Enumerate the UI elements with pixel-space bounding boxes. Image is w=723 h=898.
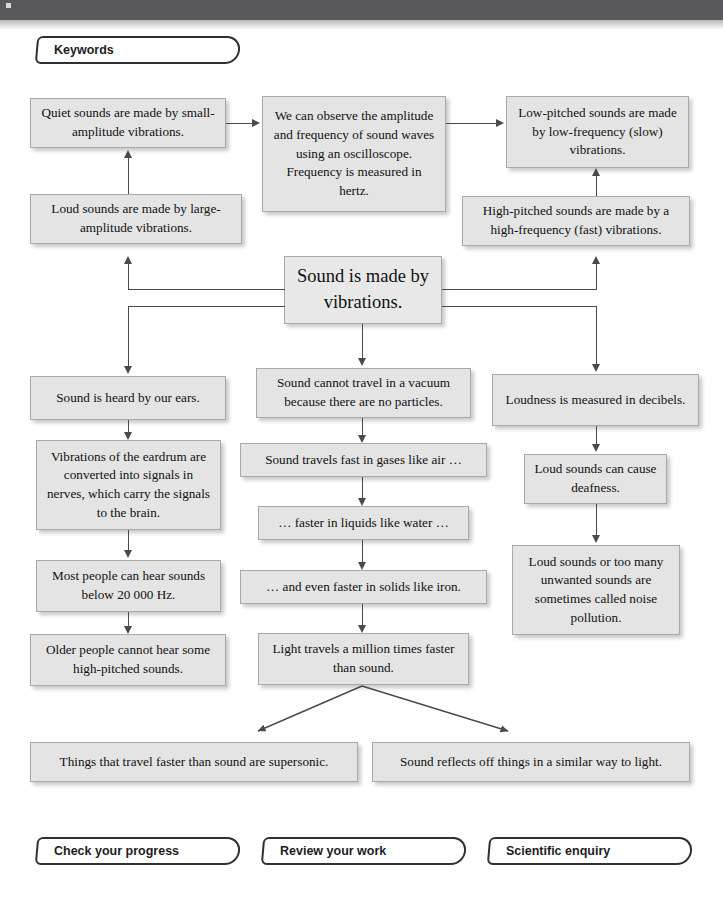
node-noise-pollution[interactable]: Loud sounds or too many unwanted sounds … [512,545,680,635]
footer-tab-check-your-progress[interactable]: Check your progress [35,837,241,865]
node-low-pitched[interactable]: Low-pitched sounds are made by low-frequ… [506,96,689,168]
connector-center-left-lower-dropper [128,306,129,368]
arrowhead-center-to-loudness [592,364,600,372]
node-oscilloscope[interactable]: We can observe the amplitude and frequen… [262,96,446,212]
connector-center-right-upper [442,289,597,290]
arrowhead-eardrum-to-hearing-range [124,550,132,558]
banner-dot-icon [6,3,11,8]
arrowhead-gases-to-liquids [358,498,366,506]
node-eardrum[interactable]: Vibrations of the eardrum are converted … [36,440,221,530]
node-light-speed[interactable]: Light travels a million times faster tha… [258,633,469,685]
connector-center-to-vacuum [362,324,363,360]
arrowhead-solids-to-light-speed [358,625,366,633]
connector-gases-to-liquids [362,477,363,500]
footer-tab-label: Check your progress [38,839,238,863]
node-deafness[interactable]: Loud sounds can cause deafness. [524,454,667,504]
connector-oscilloscope-to-low-pitched [446,123,498,124]
arrowhead-loudness-to-deafness [592,444,600,452]
connector-light-speed-to-reflection [362,686,508,731]
arrowhead-center-to-ears [124,366,132,374]
connector-liquids-to-solids [362,540,363,564]
connector-center-right-lower-dropper [596,306,597,366]
node-center-sound-is-made-by-vibrations[interactable]: Sound is made by vibrations. [284,256,442,324]
footer-tab-scientific-enquiry[interactable]: Scientific enquiry [487,837,693,865]
banner-fade [0,20,723,30]
node-high-pitched[interactable]: High-pitched sounds are made by a high-f… [462,196,690,246]
arrowhead-vacuum-to-gases [358,435,366,443]
connector-high-to-low-pitched [596,174,597,196]
arrowhead-deafness-to-noise-pollution [592,535,600,543]
top-banner [0,0,723,20]
arrowhead-quiet-to-oscilloscope [252,119,260,127]
node-supersonic[interactable]: Things that travel faster than sound are… [30,742,358,782]
node-liquids[interactable]: … faster in liquids like water … [258,506,469,540]
arrowhead-center-to-high-pitched [592,256,600,264]
footer-tab-review-your-work[interactable]: Review your work [261,837,467,865]
page-root: Keywords Quiet sounds are made by small-… [0,0,723,898]
node-gases[interactable]: Sound travels fast in gases like air … [240,443,487,477]
connector-quiet-to-oscilloscope [226,123,254,124]
arrowhead-high-to-low-pitched [592,168,600,176]
node-reflection[interactable]: Sound reflects off things in a similar w… [372,742,690,782]
arrowhead-center-to-vacuum [358,358,366,366]
node-loudness-decibels[interactable]: Loudness is measured in decibels. [492,374,699,426]
connector-loudness-to-deafness [596,426,597,446]
connector-solids-to-light-speed [362,604,363,627]
connector-center-left-upper-riser [128,264,129,290]
node-heard-by-ears[interactable]: Sound is heard by our ears. [30,376,226,420]
node-hearing-range[interactable]: Most people can hear sounds below 20 000… [36,560,221,612]
connector-center-left-lower [128,306,285,307]
arrowhead-center-to-loud [124,256,132,264]
arrowhead-loud-to-quiet [124,150,132,158]
connector-center-left-upper [128,289,285,290]
footer-tab-label: Review your work [264,839,464,863]
keywords-tab-label: Keywords [38,38,238,62]
connector-center-right-upper-riser [596,264,597,290]
node-solids[interactable]: … and even faster in solids like iron. [240,570,487,604]
footer-tab-label: Scientific enquiry [490,839,690,863]
arrowhead-oscilloscope-to-low-pitched [496,119,504,127]
connector-deafness-to-noise-pollution [596,504,597,537]
connector-light-speed-to-supersonic [258,686,362,731]
keywords-tab[interactable]: Keywords [35,36,241,64]
arrowhead-hearing-range-to-older-people [124,626,132,634]
node-loud-sounds[interactable]: Loud sounds are made by large-amplitude … [30,194,242,244]
node-vacuum[interactable]: Sound cannot travel in a vacuum because … [256,368,471,418]
node-older-people[interactable]: Older people cannot hear some high-pitch… [30,634,226,686]
arrowhead-ears-to-eardrum [124,432,132,440]
arrowhead-liquids-to-solids [358,562,366,570]
connector-eardrum-to-hearing-range [128,530,129,552]
connector-center-right-lower [442,306,597,307]
connector-loud-to-quiet [128,156,129,194]
node-quiet-sounds[interactable]: Quiet sounds are made by small-amplitude… [30,98,226,148]
